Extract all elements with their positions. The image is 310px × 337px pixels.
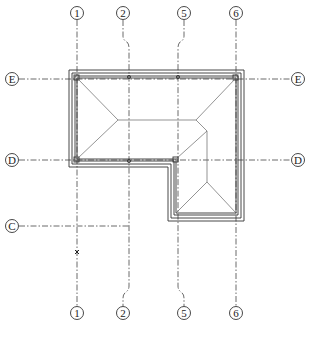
ridge-bend	[196, 120, 207, 182]
hip-left-top	[77, 78, 118, 120]
svg-text:5: 5	[181, 7, 187, 19]
hip-ell-left	[176, 182, 207, 213]
valley	[176, 131, 207, 159]
wall-outer	[75, 76, 238, 215]
hip-right-top	[196, 78, 236, 120]
roof-ridges	[77, 78, 236, 213]
svg-text:1: 1	[74, 7, 80, 19]
svg-text:5: 5	[181, 307, 187, 319]
grid-bubble-bottom-2: 2	[117, 307, 130, 320]
eave-outer	[69, 70, 244, 221]
grid-bubble-top-6: 6	[230, 7, 243, 20]
grid-bubble-bottom-1: 1	[71, 307, 84, 320]
grid-bubble-left-D: D	[6, 154, 19, 167]
svg-text:D: D	[8, 154, 16, 166]
svg-text:2: 2	[120, 7, 126, 19]
svg-text:D: D	[294, 154, 302, 166]
hip-left-bottom	[77, 120, 118, 159]
svg-text:1: 1	[74, 307, 80, 319]
hip-ell-right	[207, 182, 236, 213]
roof-plan-drawing: 1 2 5 6 1 2 5 6 E D C E D	[0, 0, 310, 337]
grid-bubble-right-E: E	[292, 73, 305, 86]
grid-bubble-bottom-6: 6	[230, 307, 243, 320]
building-outline	[69, 70, 244, 221]
svg-text:6: 6	[233, 307, 239, 319]
grid-line-2	[123, 20, 129, 306]
grid-bubble-left-E: E	[6, 73, 19, 86]
wall-inner	[77, 78, 236, 213]
grid-bubble-top-1: 1	[71, 7, 84, 20]
grid-bubble-top-5: 5	[178, 7, 191, 20]
svg-text:C: C	[8, 220, 15, 232]
svg-text:E: E	[295, 73, 302, 85]
svg-text:E: E	[9, 73, 16, 85]
grid-line-5	[178, 20, 184, 306]
svg-text:2: 2	[120, 307, 126, 319]
grid-lines	[19, 20, 291, 306]
grid-bubble-left-C: C	[6, 220, 19, 233]
svg-text:6: 6	[233, 7, 239, 19]
grid-bubble-bottom-5: 5	[178, 307, 191, 320]
grid-bubble-top-2: 2	[117, 7, 130, 20]
grid-bubble-right-D: D	[292, 154, 305, 167]
eave-mid	[72, 73, 241, 218]
